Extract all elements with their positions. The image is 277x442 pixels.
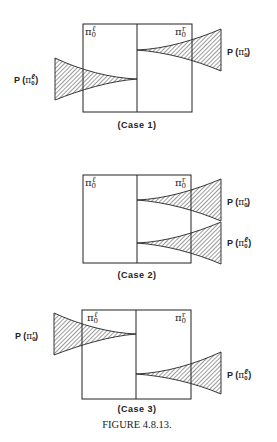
case-3-left-region-label: π0ℓ [87,310,98,325]
case-1-diagram: π0ℓ π0r P (π0ℓ) P (π0r) (Case 1) [14,24,250,130]
case-2-left-region-label: π0ℓ [85,175,96,190]
case-2-right-region-label: π0r [175,176,186,190]
case-2-lower-distribution-label: P (π0ℓ) [227,236,251,249]
case-2-upper-distribution-label: P (π0r) [227,196,250,208]
case-3-right-distribution-label: P (π0ℓ) [227,368,251,381]
case-2-diagram: π0ℓ π0r P (π0r) P (π0ℓ) (Case 2) [83,175,251,280]
case-3-diagram: π0ℓ π0r P (π0r) P (π0ℓ) (Case 3) [15,310,251,414]
case-2-caption: (Case 2) [117,270,156,280]
case-1-left-distribution [55,58,137,100]
case-2-lower-distribution [137,222,221,264]
case-1-left-distribution-label: P (π0ℓ) [14,73,38,86]
case-3-right-distribution [136,352,221,394]
case-1-right-distribution-label: P (π0r) [227,46,250,58]
case-3-right-region-label: π0r [175,311,186,325]
case-3-left-distribution-label: P (π0r) [15,330,38,342]
case-3-caption: (Case 3) [117,404,156,414]
figure-caption: FIGURE 4.8.13. [102,419,171,430]
figure-canvas: π0ℓ π0r P (π0ℓ) P (π0r) (Case 1) π0ℓ π0r… [0,0,277,442]
case-1-right-region-label: π0r [175,25,186,39]
case-1-left-region-label: π0ℓ [85,24,96,39]
case-1-caption: (Case 1) [117,120,156,130]
